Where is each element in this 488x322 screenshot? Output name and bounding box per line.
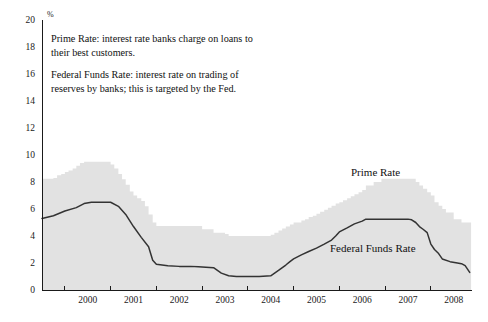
x-tick-label-2002: 2002	[170, 295, 189, 305]
x-tick-label-2000: 2000	[78, 295, 97, 305]
federal-funds-rate-note-line-1: Federal Funds Rate: interest rate on tra…	[51, 69, 239, 80]
x-tick-label-2003: 2003	[215, 295, 234, 305]
prime-rate-note: Prime Rate: interest rate banks charge o…	[51, 33, 253, 58]
y-tick-label-8: 8	[30, 177, 35, 187]
y-axis-unit-label: %	[47, 10, 54, 19]
y-axis-tick-labels: 02468101214161820	[26, 15, 36, 295]
y-tick-label-0: 0	[30, 285, 35, 295]
y-tick-label-14: 14	[26, 96, 36, 106]
x-tick-label-2001: 2001	[124, 295, 143, 305]
y-tick-label-18: 18	[26, 42, 36, 52]
prime-rate-area-series	[42, 162, 471, 290]
x-tick-label-2006: 2006	[353, 295, 372, 305]
prime-rate-series-label: Prime Rate	[351, 166, 400, 178]
x-tick-label-2008: 2008	[444, 295, 463, 305]
x-tick-label-2004: 2004	[261, 295, 280, 305]
y-tick-label-10: 10	[26, 150, 36, 160]
y-tick-label-4: 4	[30, 231, 35, 241]
y-tick-label-20: 20	[26, 15, 36, 25]
federal-funds-rate-note: Federal Funds Rate: interest rate on tra…	[51, 69, 239, 94]
y-tick-label-6: 6	[30, 204, 35, 214]
federal-funds-rate-series-label: Federal Funds Rate	[330, 242, 416, 254]
chart-plot-area: 02468101214161820 2000200120022003200420…	[0, 0, 488, 322]
federal-funds-rate-note-line-2: reserves by banks; this is targeted by t…	[51, 83, 236, 94]
x-tick-label-2007: 2007	[398, 295, 417, 305]
y-tick-label-2: 2	[30, 258, 35, 268]
prime-and-federal-funds-rate-chart: 02468101214161820 2000200120022003200420…	[0, 0, 488, 322]
prime-rate-note-line-1: Prime Rate: interest rate banks charge o…	[51, 33, 253, 44]
y-tick-label-12: 12	[26, 123, 36, 133]
prime-rate-note-line-2: their best customers.	[51, 47, 135, 58]
x-tick-label-2005: 2005	[307, 295, 326, 305]
y-tick-label-16: 16	[26, 69, 36, 79]
